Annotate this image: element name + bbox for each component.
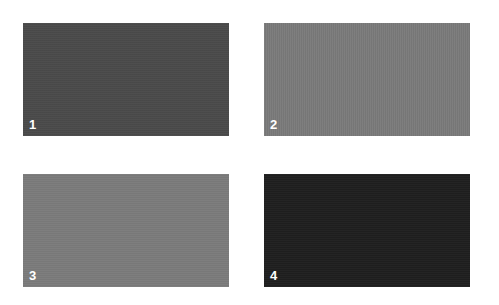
swatch-2: 2 — [264, 23, 470, 136]
swatch-number-label: 2 — [270, 118, 277, 131]
swatch-number-label: 1 — [29, 118, 36, 131]
swatch-number-label: 3 — [29, 269, 36, 282]
swatch-number-label: 4 — [270, 269, 277, 282]
swatch-4: 4 — [264, 174, 470, 287]
swatch-3: 3 — [23, 174, 229, 287]
swatch-1: 1 — [23, 23, 229, 136]
